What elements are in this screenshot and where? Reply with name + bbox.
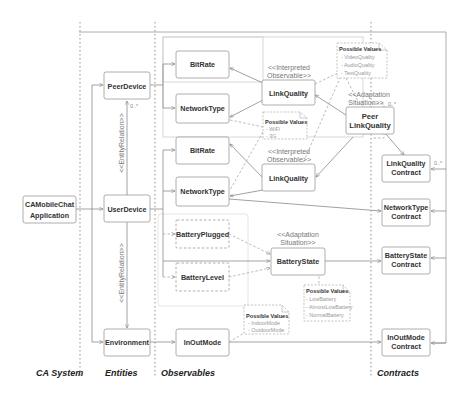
node-peer-bitrate-label: BitRate (190, 60, 215, 69)
node-peerdevice-label: PeerDevice (108, 82, 147, 91)
node-networktype-contract-line2: Contract (391, 212, 421, 221)
node-userdevice-label: UserDevice (107, 205, 146, 214)
edge-peerlinkquality-peerlq (315, 95, 346, 115)
node-linkquality-contract-line2: Contract (391, 168, 421, 177)
node-networktype-contract-line1: NetworkType (384, 203, 429, 212)
lane-label-ca-system: CA System (36, 368, 83, 378)
node-peer-linkquality[interactable]: LinkQuality (262, 80, 315, 105)
note-link-networktype-1 (230, 120, 263, 127)
node-peer-linkquality-label: LinkQuality (269, 89, 308, 98)
node-batteryplugged-label: BatteryPlugged (176, 230, 229, 239)
node-batterystate-contract-line1: BatteryState (385, 251, 427, 260)
node-peer-networktype[interactable]: NetworkType (176, 94, 229, 123)
node-batterylevel-label: BatteryLevel (181, 273, 224, 282)
stereotype-adaptation-peer-2: Situation>> (348, 99, 383, 106)
note-link-linkquality-1 (315, 72, 340, 84)
note-batterystate-item: - NormalBattery (306, 312, 344, 318)
note-networktype-item: - WiFi (266, 126, 280, 132)
node-system-line2: Application (30, 211, 69, 220)
edge-batterylevel-state (229, 268, 270, 277)
node-batterystate-label: BatteryState (277, 257, 319, 266)
note-batterystate-item: - AlmostLowBattery (306, 304, 353, 310)
stereotype-adaptation-battery-2: Situation>> (280, 239, 315, 246)
edge-peerlq-bitrate (230, 68, 263, 83)
note-inoutmode-values: Possible Values - IndoorMode - OutdoorMo… (244, 305, 289, 334)
entity-relation-label-1: <<EntityRelation>> (118, 113, 126, 173)
node-user-bitrate-label: BitRate (190, 146, 215, 155)
lane-label-observables: Observables (161, 368, 215, 378)
node-inoutmode-contract-line2: Contract (391, 342, 421, 351)
stereotype-interpreted-user-2: Observable>> (267, 156, 311, 163)
context-model-diagram: CA System Entities Observables Contracts… (0, 0, 467, 395)
node-camobilechat-application[interactable]: CAMobileChat Application (23, 196, 76, 223)
node-linkquality-contract-line1: LinkQuality (386, 159, 425, 168)
node-inoutmode-contract[interactable]: InOutMode Contract (382, 329, 430, 356)
node-userdevice[interactable]: UserDevice (104, 195, 150, 222)
note-batterystate-values: Possible Values - LowBattery - AlmostLow… (304, 285, 353, 321)
stereotype-interpreted-user-1: <<Interpreted (268, 148, 310, 156)
node-inoutmode[interactable]: InOutMode (176, 329, 229, 356)
node-peerdevice[interactable]: PeerDevice (104, 72, 150, 99)
lane-label-entities: Entities (105, 368, 138, 378)
node-peer-networktype-label: NetworkType (180, 104, 225, 113)
node-linkquality-contract[interactable]: LinkQuality Contract (382, 155, 430, 182)
note-inoutmode-title: Possible Values (246, 313, 288, 319)
note-linkquality-values: Possible Values - VideoQuality - AudioQu… (337, 43, 387, 78)
edge-bus-peerdevice (92, 85, 103, 209)
node-peer-link-line1: Peer (362, 112, 379, 121)
node-peer-link-line2: LinkQuality (349, 121, 391, 130)
node-environment[interactable]: Environment (104, 329, 150, 356)
node-user-linkquality-label: LinkQuality (269, 174, 308, 183)
note-linkquality-item: - TextQuality (341, 70, 371, 76)
node-system-line1: CAMobileChat (25, 200, 75, 209)
node-batterystate[interactable]: BatteryState (271, 248, 325, 275)
node-batterystate-contract[interactable]: BatteryState Contract (382, 247, 430, 274)
node-batteryplugged[interactable]: BatteryPlugged (176, 220, 229, 248)
edge-peerlinkquality-userlq (316, 137, 353, 177)
node-networktype-contract[interactable]: NetworkType Contract (382, 199, 430, 226)
node-user-linkquality[interactable]: LinkQuality (262, 164, 315, 191)
edge-peerlinkquality-contract (385, 133, 404, 155)
entity-relation-label-2: <<EntityRelation>> (118, 243, 126, 303)
node-user-networktype-label: NetworkType (180, 187, 225, 196)
note-linkquality-item: - AudioQuality (341, 62, 375, 68)
node-batterystate-contract-line2: Contract (391, 260, 421, 269)
stereotype-interpreted-peer-1: <<Interpreted (268, 64, 310, 72)
node-user-networktype[interactable]: NetworkType (176, 177, 229, 206)
node-inoutmode-contract-line1: InOutMode (387, 333, 425, 342)
note-linkquality-title: Possible Values (339, 46, 381, 52)
note-inoutmode-item: - OutdoorMode (248, 327, 284, 333)
edge-networktype-contract (229, 199, 381, 211)
edge-batteryplugged-state (229, 234, 270, 254)
note-link-inoutmode (229, 333, 244, 342)
edge-bus-environment (92, 209, 103, 342)
note-link-networktype-2 (230, 132, 263, 190)
node-peer-bitrate[interactable]: BitRate (176, 51, 229, 78)
stereotype-adaptation-peer-1: <<Adaptation (348, 91, 390, 99)
stereotype-adaptation-battery-1: <<Adaptation (277, 231, 319, 239)
node-peer-linkquality-situation[interactable]: Peer LinkQuality (346, 107, 394, 134)
multiplicity-contract: 0..* (434, 160, 443, 166)
edge-peerlq-networktype (230, 100, 263, 117)
note-inoutmode-item: - IndoorMode (248, 320, 280, 326)
lane-label-contracts: Contracts (377, 368, 419, 378)
note-networktype-values: Possible Values - WiFi - 3G (263, 112, 307, 139)
note-networktype-title: Possible Values (265, 119, 307, 125)
note-linkquality-item: - VideoQuality (341, 54, 375, 60)
node-batterylevel[interactable]: BatteryLevel (176, 263, 229, 291)
multiplicity-peerlinkquality: 0..* (388, 101, 397, 107)
note-batterystate-item: - LowBattery (306, 296, 337, 302)
node-user-bitrate[interactable]: BitRate (176, 137, 229, 164)
note-batterystate-title: Possible Values (306, 288, 348, 294)
multiplicity-peerdevice: 0..* (130, 103, 139, 109)
node-inoutmode-label: InOutMode (184, 338, 222, 347)
node-environment-label: Environment (105, 338, 150, 347)
note-networktype-item: - 3G (266, 133, 276, 139)
edge-userlq-networktype (230, 190, 263, 196)
stereotype-interpreted-peer-2: Observable>> (267, 72, 311, 79)
